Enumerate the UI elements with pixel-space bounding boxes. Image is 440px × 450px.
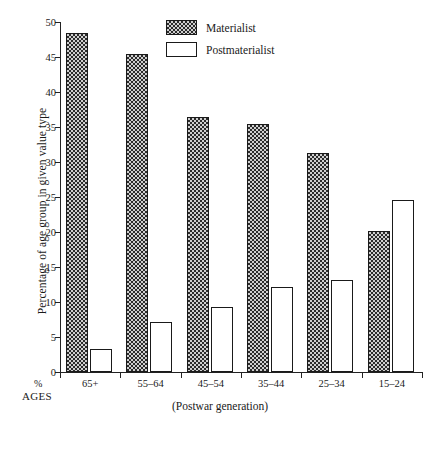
bar-postmaterialist (392, 200, 414, 372)
bar-group (362, 22, 422, 372)
x-tick-label: 15–24 (379, 378, 405, 389)
y-tick-label: 15 (46, 262, 57, 273)
bar-materialist (187, 117, 209, 372)
chart-legend: MaterialistPostmaterialist (166, 20, 274, 64)
bar-group (181, 22, 241, 372)
y-tick-label: 20 (46, 227, 57, 238)
y-tick-label: 0 (51, 367, 56, 378)
y-tick-label: 30 (46, 157, 57, 168)
x-tick-label: 45–54 (198, 378, 224, 389)
bar-postmaterialist (150, 322, 172, 372)
x-tick-label: 25–34 (318, 378, 344, 389)
bar-group (241, 22, 301, 372)
x-tick-mark (120, 372, 121, 378)
x-tick-mark (241, 372, 242, 378)
bar-materialist (247, 124, 269, 372)
legend-item: Materialist (166, 20, 274, 35)
bar-group (60, 22, 120, 372)
legend-label: Materialist (206, 22, 256, 34)
y-tick-label: 50 (46, 17, 57, 28)
x-tick-mark (60, 372, 61, 378)
y-tick-label: 25 (46, 192, 57, 203)
bar-materialist (66, 33, 88, 373)
x-tick-mark (181, 372, 182, 378)
x-tick-mark (362, 372, 363, 378)
y-axis-title: Percentage of age group in given value t… (36, 71, 48, 351)
legend-label: Postmaterialist (206, 44, 274, 56)
bar-group (120, 22, 180, 372)
bar-postmaterialist (90, 349, 112, 372)
bar-group (301, 22, 361, 372)
y-tick-label: 35 (46, 122, 57, 133)
bar-chart-figure: Percentage of age group in given value t… (0, 0, 440, 450)
plot-area: 05101520253035404550 65+55–6445–5435–442… (60, 22, 422, 372)
x-tick-label: 35–44 (258, 378, 284, 389)
bar-postmaterialist (211, 307, 233, 372)
legend-swatch-postmaterialist (166, 42, 197, 57)
bar-materialist (126, 54, 148, 373)
y-tick-label: 10 (46, 297, 57, 308)
legend-item: Postmaterialist (166, 42, 274, 57)
bar-materialist (368, 231, 390, 372)
x-tick-label: 65+ (82, 378, 98, 389)
y-tick-label: 45 (46, 52, 57, 63)
y-tick-label: 40 (46, 87, 57, 98)
x-axis-caption: (Postwar generation) (0, 400, 440, 412)
bar-postmaterialist (271, 287, 293, 372)
bar-materialist (307, 153, 329, 372)
y-tick-label: 5 (51, 332, 56, 343)
x-tick-label: 55–64 (137, 378, 163, 389)
legend-swatch-materialist (166, 20, 197, 35)
x-tick-mark (301, 372, 302, 378)
x-tick-mark (422, 372, 423, 378)
bar-postmaterialist (331, 280, 353, 372)
percent-symbol-label: % (34, 378, 42, 389)
